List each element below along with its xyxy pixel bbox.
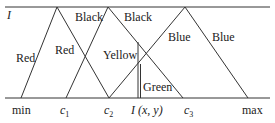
membership-function-diagram: I Red Red Black Black Yellow Green Blue …: [0, 0, 275, 123]
label-blue-right: Blue: [212, 31, 235, 43]
tick-pixel-value: I (x, y): [131, 104, 163, 116]
tick-c2-sub: 2: [109, 110, 113, 119]
label-black-left: Black: [75, 11, 103, 23]
tick-c1: c1: [60, 104, 69, 119]
label-black-right: Black: [124, 11, 152, 23]
tick-min: min: [12, 104, 31, 116]
label-red-right: Red: [55, 44, 74, 56]
intensity-axis-label: I: [7, 9, 11, 21]
label-red-left: Red: [16, 52, 35, 64]
tick-c1-sub: 1: [65, 110, 69, 119]
blue-fall-line: [185, 7, 248, 98]
tick-c2: c2: [104, 104, 113, 119]
tick-max: max: [242, 104, 263, 116]
label-green: Green: [143, 81, 172, 93]
label-yellow: Yellow: [103, 49, 137, 61]
tick-c3: c3: [184, 104, 193, 119]
tick-c3-sub: 3: [189, 110, 193, 119]
label-blue-left: Blue: [168, 31, 191, 43]
